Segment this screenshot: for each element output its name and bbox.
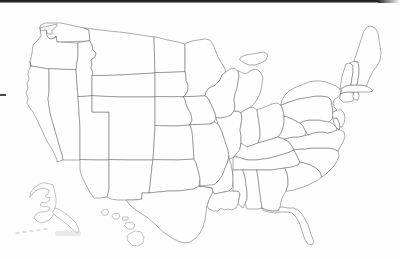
state-michigan[interactable] [234,52,268,113]
state-kansas[interactable] [153,125,194,160]
hawaii-island-oahu[interactable] [112,213,120,219]
us-map-canvas [0,0,400,259]
scan-edge-top [0,0,400,3]
state-georgia[interactable] [257,168,288,211]
state-florida[interactable] [262,207,314,245]
inset-alaska-group [16,183,79,233]
state-louisiana[interactable] [207,191,240,211]
state-montana[interactable] [84,28,155,76]
inset-hawaii-group [101,209,144,246]
hawaii-island-maui[interactable] [125,222,135,229]
scan-smudge [55,231,81,236]
scan-edge-top-fade [378,0,400,3]
state-oklahoma[interactable] [149,159,200,193]
state-indiana[interactable] [240,107,260,149]
alaska-peninsula[interactable] [53,208,79,233]
state-connecticut[interactable] [340,92,354,102]
state-rhode-island[interactable] [353,92,359,100]
state-south-dakota[interactable] [155,72,188,97]
hawaii-island-kauai[interactable] [101,209,109,215]
state-north-dakota[interactable] [154,37,185,73]
hawaii-island-big-island[interactable] [127,231,144,246]
scan-tick-left [0,94,6,96]
contiguous-states-group [26,23,381,245]
us-states-svg [0,0,400,259]
hawaii-island-molokai[interactable] [123,217,128,220]
state-arizona[interactable] [80,160,109,198]
state-alaska[interactable] [30,183,56,223]
aleutian-islands[interactable] [16,229,47,233]
state-wyoming[interactable] [92,73,155,97]
